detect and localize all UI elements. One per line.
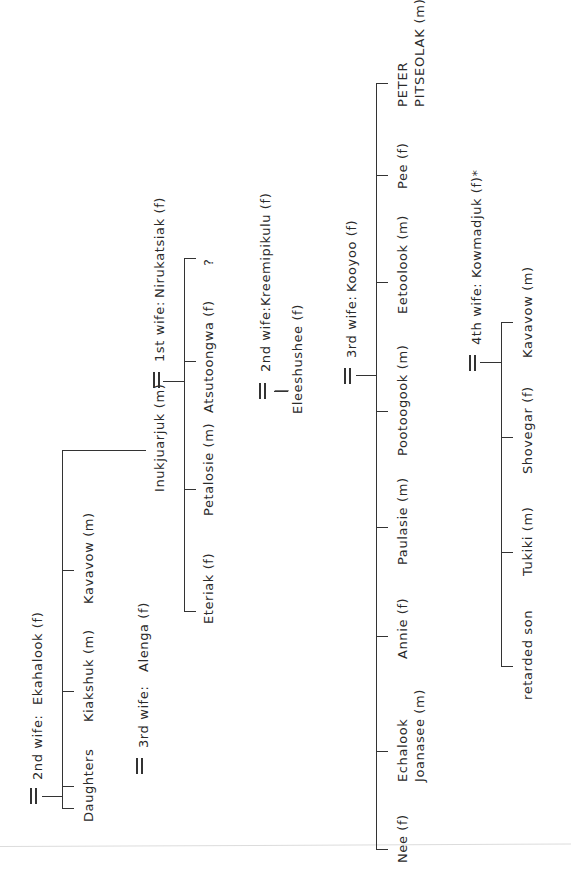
- person-eleeshushee: Eleeshushee (f): [290, 304, 305, 414]
- person-retarded-son: retarded son: [520, 610, 535, 700]
- child-tick: [376, 175, 388, 176]
- person-pootoogook: Pootoogook (m): [395, 345, 410, 456]
- marriage-symbol: [136, 758, 138, 774]
- person-petalosie: Petalosie (m): [201, 423, 216, 516]
- child-tick: [376, 849, 388, 850]
- spouse-label-4th-wife: 4th wife:: [469, 283, 484, 345]
- spouse-name-kreemipikulu: Kreemipikulu (f): [258, 193, 273, 306]
- spouse-label-1st-wife: 1st wife:: [152, 301, 167, 362]
- marriage-symbol: [153, 372, 155, 388]
- person-paulasie: Paulasie (m): [395, 477, 410, 565]
- sibling-bracket: [62, 450, 63, 808]
- sibling-bracket: [501, 322, 502, 666]
- person-shovegar: Shovegar (f): [520, 386, 535, 474]
- child-tick: [62, 570, 74, 571]
- child-tick: [184, 611, 196, 612]
- family-tree-diagram: 2nd wife: Ekahalook (f) Daughters Kiaksh…: [0, 0, 571, 879]
- child-tick: [376, 83, 388, 84]
- person-kavavow-son: Kavavow (m): [520, 266, 535, 358]
- person-daughters: Daughters: [81, 749, 96, 822]
- child-tick: [376, 527, 388, 528]
- person-eetoolook: Eetoolook (m): [395, 215, 410, 314]
- marriage-symbol: [141, 758, 143, 774]
- descent-line: [480, 362, 501, 363]
- child-tick: [501, 437, 513, 438]
- sibling-bracket: [184, 258, 185, 611]
- child-tick: [376, 636, 388, 637]
- spouse-name-nirukatsiak: Nirukatsiak (f): [152, 197, 167, 298]
- marriage-symbol: [264, 383, 266, 399]
- child-tick: [184, 489, 196, 490]
- person-tukiki: Tukiki (m): [520, 507, 535, 576]
- marriage-symbol: [30, 788, 32, 804]
- spouse-label-3rd-wife: 3rd wife:: [344, 296, 359, 358]
- spouse-label-2nd-wife: 2nd wife:: [258, 307, 273, 373]
- person-joanasee: Joanasee (m): [412, 689, 427, 782]
- marriage-symbol: [469, 355, 471, 371]
- marriage-symbol: [35, 788, 37, 804]
- marriage-symbol: [344, 368, 346, 384]
- marriage-symbol: [158, 372, 160, 388]
- child-tick: [376, 282, 388, 283]
- person-nee: Nee (f): [395, 814, 410, 863]
- child-tick: [62, 691, 74, 692]
- spouse-name-ekahalook: Ekahalook (f): [30, 612, 45, 705]
- person-eteriak: Eteriak (f): [201, 553, 216, 624]
- person-annie: Annie (f): [395, 598, 410, 659]
- child-tick: [62, 786, 74, 787]
- page-edge-divider: [0, 844, 571, 847]
- spouse-name-kowmadjuk: Kowmadjuk (f)*: [469, 170, 484, 278]
- child-tick: [184, 258, 196, 259]
- person-atsutoongwa: Atsutoongwa (f): [201, 300, 216, 413]
- descent-line: [356, 375, 376, 376]
- spouse-name-kooyoo: Kooyoo (f): [344, 220, 359, 292]
- child-tick: [376, 751, 388, 752]
- descent-line: [42, 796, 62, 797]
- person-inukjuarjuk: Inukjuarjuk (m): [152, 384, 167, 492]
- person-kiakshuk: Kiakshuk (m): [81, 629, 96, 722]
- spouse-label-3rd-wife: 3rd wife:: [136, 686, 151, 748]
- person-kavavow: Kavavow (m): [81, 512, 96, 604]
- child-tick: [184, 361, 196, 362]
- spouse-name-alenga: Alenga (f): [136, 602, 151, 672]
- marriage-symbol: [259, 383, 261, 399]
- person-unknown: ?: [201, 259, 216, 267]
- spouse-label-2nd-wife: 2nd wife:: [30, 715, 45, 781]
- marriage-symbol: [474, 355, 476, 371]
- person-pee: Pee (f): [395, 143, 410, 189]
- child-tick-inukjuarjuk: [62, 450, 146, 451]
- child-tick: [501, 322, 513, 323]
- child-tick: [501, 666, 513, 667]
- sibling-bracket: [376, 83, 377, 850]
- child-tick: [376, 411, 388, 412]
- descent-line: [274, 391, 288, 392]
- descent-line: [163, 381, 184, 382]
- person-peter: PETER: [395, 62, 410, 107]
- child-tick: [501, 552, 513, 553]
- marriage-symbol: [349, 368, 351, 384]
- person-pitseolak: PITSEOLAK (m): [412, 0, 427, 107]
- person-echalook: Echalook: [395, 719, 410, 782]
- child-tick: [62, 808, 74, 809]
